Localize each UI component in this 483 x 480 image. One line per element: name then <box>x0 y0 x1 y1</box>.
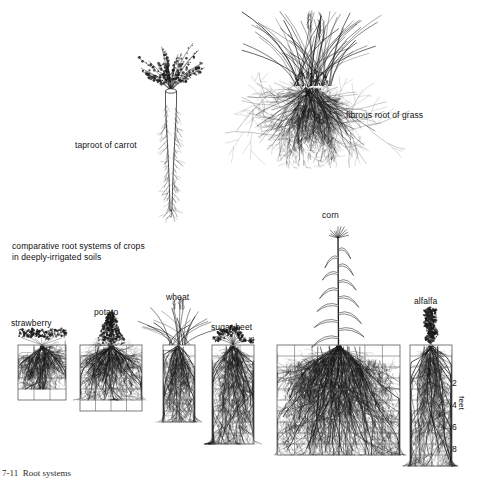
crop-shoot-corn <box>312 226 365 347</box>
crop-shoot-strawberry <box>18 327 67 345</box>
crop-root-system-panels <box>0 0 483 480</box>
crop-shoot-wheat <box>138 297 221 345</box>
crop-roots-alfalfa <box>402 346 458 466</box>
crop-panel-strawberry <box>18 327 67 400</box>
depth-grid-alfalfa <box>410 345 452 466</box>
root-systems-figure: taproot of carrot fibrous root of grass … <box>0 0 483 480</box>
depth-axis-title: feet <box>457 396 466 410</box>
crop-panel-wheat <box>138 297 221 422</box>
crop-panel-corn <box>275 226 406 455</box>
crop-roots-potato <box>73 338 146 400</box>
crop-roots-sugar-beet <box>204 346 262 444</box>
crop-label-sugar-beet: sugar beet <box>211 322 252 333</box>
depth-tick-8-feet: 8 <box>452 444 457 454</box>
crop-panel-potato <box>73 311 146 411</box>
depth-tick-2-feet: 2 <box>452 378 457 388</box>
crop-label-strawberry: strawberry <box>11 318 52 329</box>
crop-label-alfalfa: alfalfa <box>414 296 437 307</box>
crop-label-potato: potato <box>94 307 118 318</box>
crop-label-wheat: wheat <box>166 292 189 303</box>
depth-tick-6-feet: 6 <box>452 422 457 432</box>
figure-caption: 7-11 Root systems <box>2 468 71 478</box>
crop-panel-sugar-beet <box>204 324 262 444</box>
crop-shoot-alfalfa <box>423 306 439 345</box>
crop-roots-strawberry <box>19 340 66 389</box>
crop-panel-alfalfa <box>402 306 458 466</box>
crop-label-corn: corn <box>322 210 339 221</box>
